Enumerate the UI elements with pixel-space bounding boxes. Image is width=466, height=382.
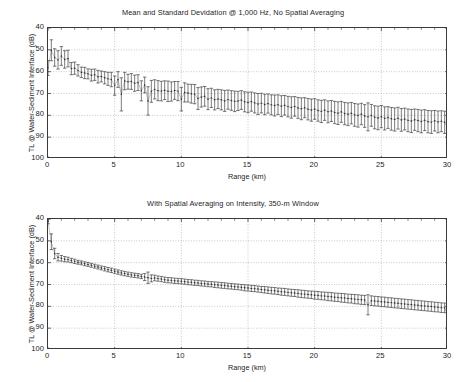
panel-with-spatial-averaging: With Spatial Averaging on Intensity, 350… xyxy=(0,191,466,382)
y-tick-label: 70 xyxy=(20,89,44,97)
x-axis-label-bottom: Range (km) xyxy=(47,363,447,372)
plot-area-bottom xyxy=(47,218,447,349)
figure-two-panel-transmission-loss: Mean and Standard Devidation @ 1,000 Hz,… xyxy=(0,0,466,382)
x-tick-label: 30 xyxy=(435,161,459,169)
y-tick-label: 90 xyxy=(20,323,44,331)
y-tick-label: 80 xyxy=(20,301,44,309)
y-tick-label: 90 xyxy=(20,132,44,140)
chart-title-top: Mean and Standard Devidation @ 1,000 Hz,… xyxy=(0,8,466,17)
x-tick-label: 0 xyxy=(35,352,59,360)
plot-svg-top xyxy=(48,28,447,158)
x-tick-label: 5 xyxy=(102,352,126,360)
y-axis-ticks-top: 405060708090100 xyxy=(18,27,44,158)
y-tick-label: 60 xyxy=(20,67,44,75)
x-tick-label: 25 xyxy=(368,352,392,360)
x-tick-label: 15 xyxy=(235,352,259,360)
y-tick-label: 40 xyxy=(20,23,44,31)
y-tick-label: 50 xyxy=(20,236,44,244)
x-tick-label: 25 xyxy=(368,161,392,169)
plot-svg-bottom xyxy=(48,219,447,349)
y-tick-label: 50 xyxy=(20,45,44,53)
x-tick-label: 5 xyxy=(102,161,126,169)
y-axis-ticks-bottom: 405060708090100 xyxy=(18,218,44,349)
x-tick-label: 20 xyxy=(302,161,326,169)
chart-title-bottom: With Spatial Averaging on Intensity, 350… xyxy=(0,199,466,208)
x-tick-label: 10 xyxy=(168,352,192,360)
x-tick-label: 0 xyxy=(35,161,59,169)
x-tick-label: 10 xyxy=(168,161,192,169)
y-tick-label: 80 xyxy=(20,110,44,118)
x-tick-label: 15 xyxy=(235,161,259,169)
plot-area-top xyxy=(47,27,447,158)
x-axis-label-top: Range (km) xyxy=(47,172,447,181)
y-tick-label: 70 xyxy=(20,280,44,288)
y-tick-label: 60 xyxy=(20,258,44,266)
x-tick-label: 30 xyxy=(435,352,459,360)
x-tick-label: 20 xyxy=(302,352,326,360)
y-tick-label: 40 xyxy=(20,214,44,222)
panel-no-spatial-averaging: Mean and Standard Devidation @ 1,000 Hz,… xyxy=(0,0,466,191)
